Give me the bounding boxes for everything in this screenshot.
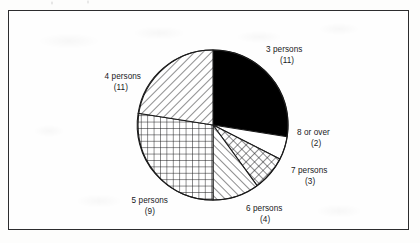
pie-label-5-persons-name: 5 persons [75,195,168,206]
pie-label-4-persons: 4 persons (11) [48,71,141,94]
pie-slice-5-persons [137,113,213,200]
pie-label-8-or-over-count: (2) [311,138,330,149]
pie-label-4-persons-name: 4 persons [48,71,141,82]
pie-label-5-persons: 5 persons (9) [75,195,168,218]
pie-label-5-persons-count: (9) [75,206,155,217]
pie-label-6-persons-count: (4) [260,214,282,225]
pie-slice-4-persons [138,50,213,125]
pie-label-8-or-over: 8 or over (2) [297,127,330,150]
pie-chart-figure: 3 persons (11) 8 or over (2) 7 persons (… [0,0,420,243]
pie-label-7-persons-name: 7 persons [291,165,327,176]
pie-chart-svg [0,0,420,243]
pie-label-7-persons-count: (3) [305,176,327,187]
pie-label-3-persons: 3 persons (11) [266,44,302,67]
pie-label-6-persons-name: 6 persons [246,203,282,214]
pie-label-4-persons-count: (11) [48,82,128,93]
pie-label-3-persons-count: (11) [280,55,302,66]
pie-label-6-persons: 6 persons (4) [246,203,282,226]
pie-label-7-persons: 7 persons (3) [291,165,327,188]
pie-label-8-or-over-name: 8 or over [297,127,330,138]
pie-label-3-persons-name: 3 persons [266,44,302,55]
